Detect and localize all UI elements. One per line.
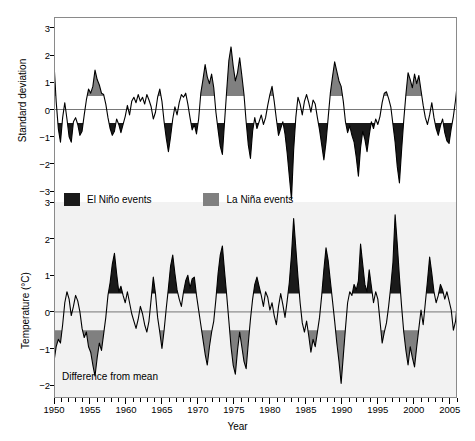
y-tick-mark xyxy=(50,55,54,56)
x-minor-tick-mark xyxy=(61,398,62,402)
x-tick-label: 1995 xyxy=(367,404,388,415)
x-tick-label: 1955 xyxy=(79,404,100,415)
y-tick-mark xyxy=(50,27,54,28)
upper-panel-soi xyxy=(54,17,457,202)
x-minor-tick-mark xyxy=(392,398,393,402)
data-series-line xyxy=(54,215,457,384)
x-minor-tick-mark xyxy=(226,398,227,402)
x-minor-tick-mark xyxy=(284,398,285,402)
y-tick-label: 2 xyxy=(28,233,50,244)
x-tick-label: 1965 xyxy=(151,404,172,415)
x-tick-label: 2000 xyxy=(403,404,424,415)
y-tick-mark xyxy=(50,311,54,312)
x-minor-tick-mark xyxy=(291,398,292,402)
x-tick-label: 1980 xyxy=(259,404,280,415)
x-minor-tick-mark xyxy=(421,398,422,402)
x-tick-label: 1975 xyxy=(223,404,244,415)
x-tick-label: 1990 xyxy=(331,404,352,415)
legend-item-elnino: El Niño events xyxy=(64,193,151,206)
x-minor-tick-mark xyxy=(277,398,278,402)
elnino-fill-region xyxy=(216,246,226,294)
figure-enso-timeseries: 3210−1−2−3 3210−1−2 Standard deviation T… xyxy=(0,0,475,441)
x-minor-tick-mark xyxy=(118,398,119,402)
x-minor-tick-mark xyxy=(68,398,69,402)
y-tick-mark xyxy=(50,136,54,137)
legend: El Niño events La Niña events xyxy=(64,190,293,208)
x-minor-tick-mark xyxy=(212,398,213,402)
x-minor-tick-mark xyxy=(334,398,335,402)
y-tick-label: 1 xyxy=(28,270,50,281)
x-minor-tick-mark xyxy=(435,398,436,402)
x-minor-tick-mark xyxy=(313,398,314,402)
x-minor-tick-mark xyxy=(363,398,364,402)
x-minor-tick-mark xyxy=(219,398,220,402)
lower-panel-annotation: Difference from mean xyxy=(62,371,158,382)
lower-y-axis-title: Temperature (°C) xyxy=(20,251,31,371)
x-minor-tick-mark xyxy=(140,398,141,402)
x-minor-tick-mark xyxy=(133,398,134,402)
x-minor-tick-mark xyxy=(349,398,350,402)
x-tick-label: 1960 xyxy=(115,404,136,415)
x-minor-tick-mark xyxy=(111,398,112,402)
x-minor-tick-mark xyxy=(205,398,206,402)
y-tick-mark xyxy=(50,348,54,349)
x-minor-tick-mark xyxy=(442,398,443,402)
x-minor-tick-mark xyxy=(183,398,184,402)
y-tick-mark xyxy=(50,163,54,164)
x-minor-tick-mark xyxy=(385,398,386,402)
x-minor-tick-mark xyxy=(428,398,429,402)
x-minor-tick-mark xyxy=(176,398,177,402)
x-minor-tick-mark xyxy=(399,398,400,402)
x-minor-tick-mark xyxy=(75,398,76,402)
x-tick-label: 1950 xyxy=(43,404,64,415)
upper-y-axis-title: Standard deviation xyxy=(17,41,28,161)
y-tick-label: 0 xyxy=(28,306,50,317)
lanina-swatch-icon xyxy=(203,193,219,206)
y-tick-label: −1 xyxy=(28,343,50,354)
y-tick-mark xyxy=(50,191,54,192)
y-tick-label: −2 xyxy=(28,380,50,391)
x-minor-tick-mark xyxy=(320,398,321,402)
x-minor-tick-mark xyxy=(406,398,407,402)
y-tick-mark xyxy=(50,275,54,276)
x-minor-tick-mark xyxy=(298,398,299,402)
x-minor-tick-mark xyxy=(327,398,328,402)
legend-item-lanina: La Niña events xyxy=(203,193,293,206)
lower-panel-plot xyxy=(54,202,457,398)
x-minor-tick-mark xyxy=(97,398,98,402)
x-axis-title: Year xyxy=(0,421,475,432)
x-minor-tick-mark xyxy=(370,398,371,402)
legend-label-lanina: La Niña events xyxy=(226,194,293,205)
x-minor-tick-mark xyxy=(241,398,242,402)
x-minor-tick-mark xyxy=(147,398,148,402)
lower-panel-temperature xyxy=(54,202,457,398)
x-tick-label: 1970 xyxy=(187,404,208,415)
x-minor-tick-mark xyxy=(356,398,357,402)
x-minor-tick-mark xyxy=(104,398,105,402)
y-tick-mark xyxy=(50,109,54,110)
y-tick-mark xyxy=(50,238,54,239)
x-minor-tick-mark xyxy=(190,398,191,402)
x-minor-tick-mark xyxy=(248,398,249,402)
elnino-swatch-icon xyxy=(64,193,80,206)
x-minor-tick-mark xyxy=(82,398,83,402)
x-minor-tick-mark xyxy=(154,398,155,402)
upper-panel-plot xyxy=(54,17,457,202)
lower-y-tick-labels: 3210−1−2 xyxy=(26,0,50,441)
x-tick-label: 1985 xyxy=(295,404,316,415)
x-tick-label: 2005 xyxy=(439,404,460,415)
y-tick-mark xyxy=(50,385,54,386)
x-minor-tick-mark xyxy=(169,398,170,402)
x-minor-tick-mark xyxy=(255,398,256,402)
x-minor-tick-mark xyxy=(262,398,263,402)
y-tick-mark xyxy=(50,82,54,83)
legend-label-elnino: El Niño events xyxy=(87,194,151,205)
y-tick-label: 3 xyxy=(28,197,50,208)
y-tick-mark xyxy=(50,202,54,203)
x-minor-tick-mark xyxy=(457,398,458,402)
